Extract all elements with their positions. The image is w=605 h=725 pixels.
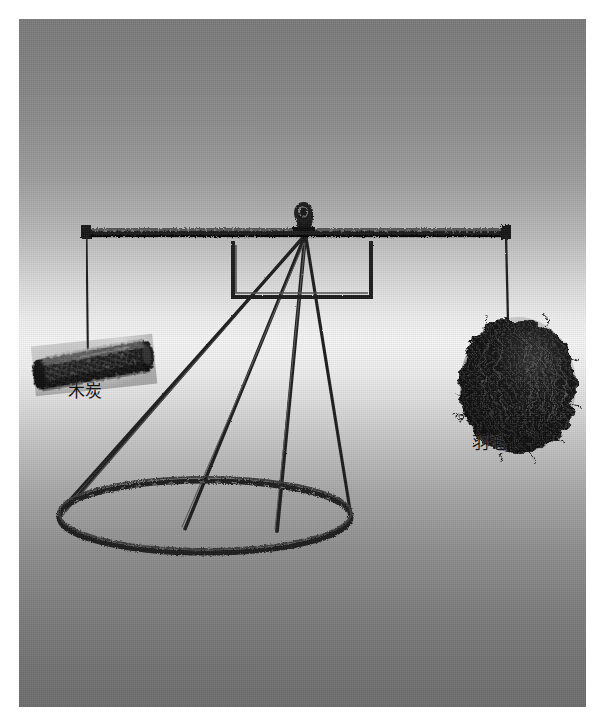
page-canvas: 木炭 羽毛 [0,0,605,725]
balance-scale-drawing [19,19,586,707]
pivot-knot [293,204,315,231]
illustration-panel: 木炭 羽毛 [19,19,586,707]
label-feathers: 羽毛 [472,435,506,452]
right-suspension-cord [506,235,508,321]
label-charcoal: 木炭 [68,383,102,400]
illustration-artwork [19,19,586,707]
base-ring [59,477,351,553]
